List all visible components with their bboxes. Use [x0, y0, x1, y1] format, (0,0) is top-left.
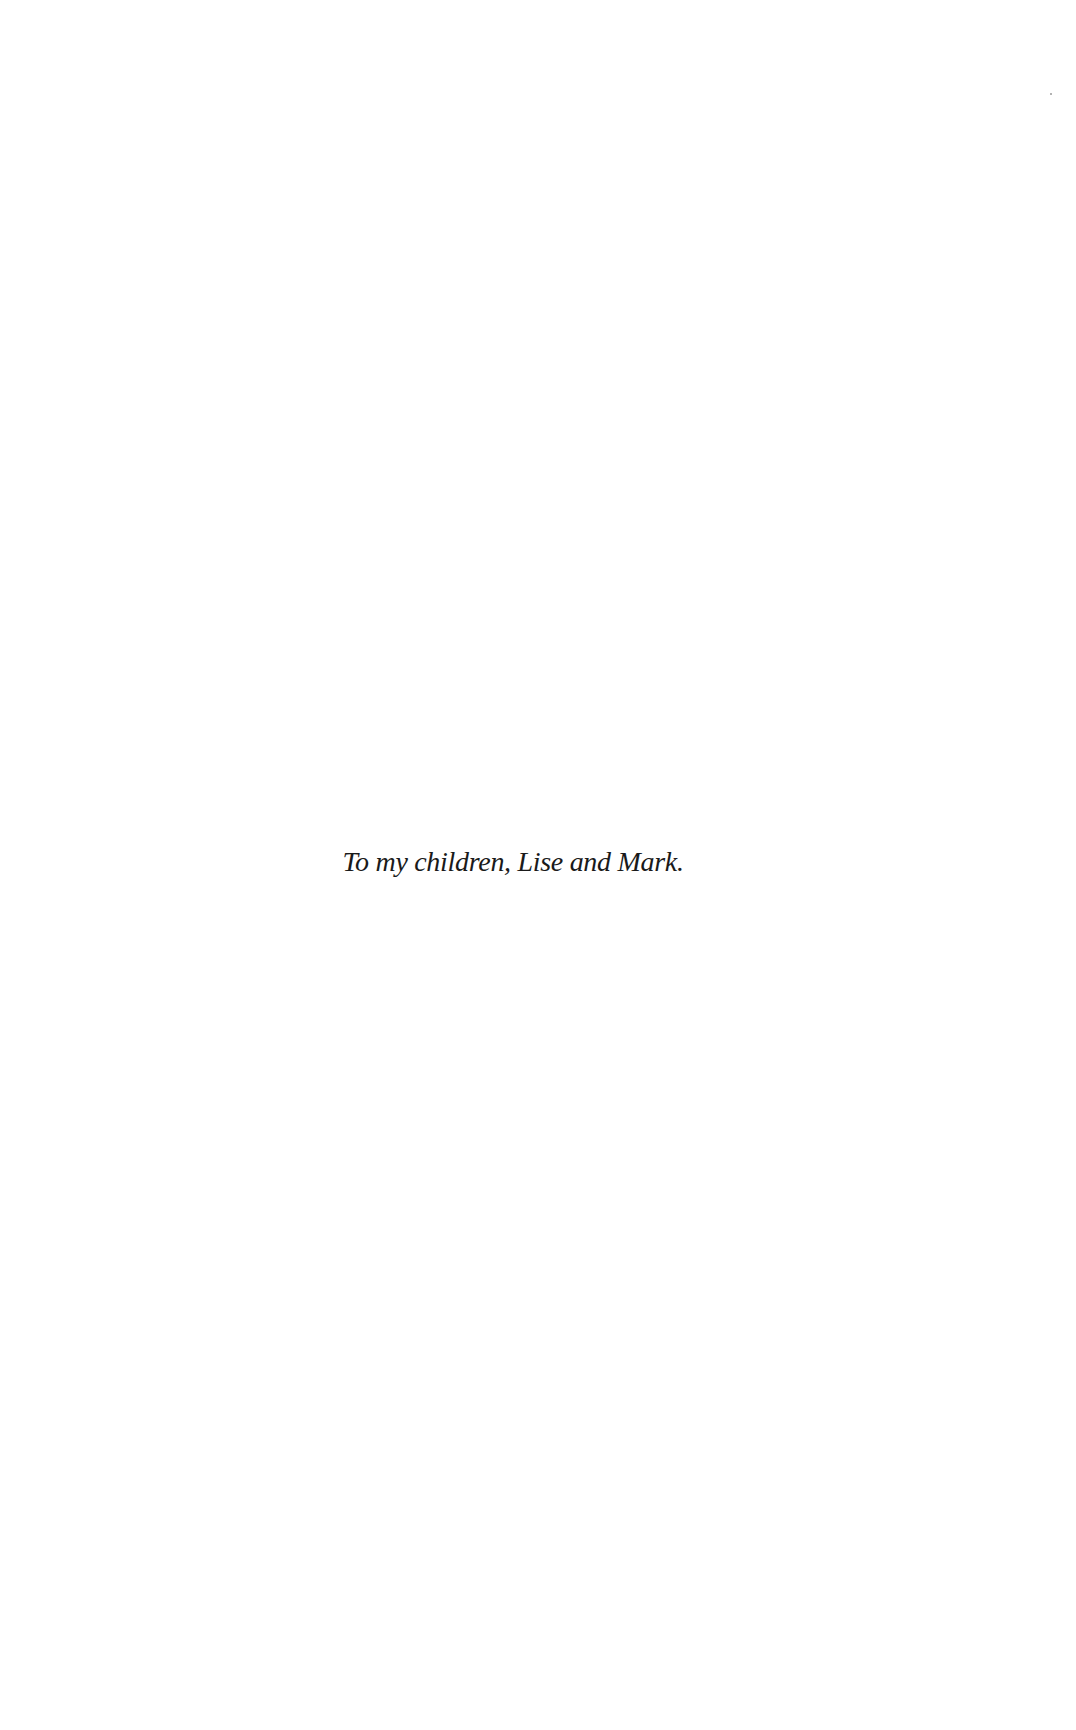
book-page: To my children, Lise and Mark. — [0, 0, 1076, 1730]
scan-artifact — [1050, 93, 1052, 95]
dedication-text: To my children, Lise and Mark. — [0, 846, 1026, 878]
